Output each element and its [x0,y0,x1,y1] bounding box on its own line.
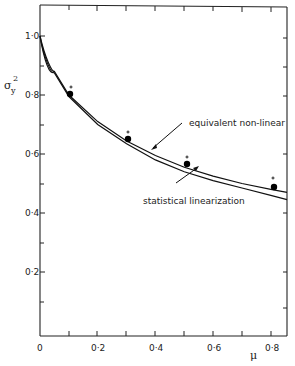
curve-equivalent-non-linear [40,36,287,192]
y-tick-label: 0·4 [25,208,40,218]
data-point [271,184,277,190]
data-point [67,91,73,97]
y-axis-title: σ y 2 [4,74,18,95]
y-tick-label: 0·8 [25,90,40,100]
chart-canvas: 1·0 0·8 0·6 0·4 0·2 0 0·2 0·4 0·6 0·8 σ … [0,0,295,366]
y-axis-subscript: y [10,86,16,95]
x-tick-label: 0·8 [265,343,280,353]
annotation-equivalent-non-linear: equivalent non-linear [189,118,285,128]
y-tick-label: 0·6 [25,149,40,159]
y-axis-right-ticks [283,38,287,308]
x-tick-label: 0·6 [207,343,222,353]
x-tick-label: 0·2 [91,343,105,353]
y-axis-superscript: 2 [13,74,18,83]
plus-markers [70,86,275,180]
data-point [184,161,190,167]
annotation-pointer-lower [176,168,197,183]
x-axis-ticks [69,331,271,336]
y-tick-label: 0·2 [25,267,39,277]
x-axis-title: μ [250,349,257,362]
annotation-statistical-linearization: statistical linearization [143,196,245,206]
x-tick-label: 0 [37,343,43,353]
data-points [67,91,277,190]
y-axis-ticks [40,36,45,302]
plot-frame [40,5,287,336]
data-point [125,136,131,142]
y-tick-label: 1·0 [25,31,40,41]
x-tick-labels: 0 0·2 0·4 0·6 0·8 [37,343,280,353]
y-tick-labels: 1·0 0·8 0·6 0·4 0·2 [25,31,40,277]
x-tick-label: 0·4 [149,343,164,353]
arrow-head-upper [151,144,157,150]
annotation-pointer-upper [153,123,182,148]
